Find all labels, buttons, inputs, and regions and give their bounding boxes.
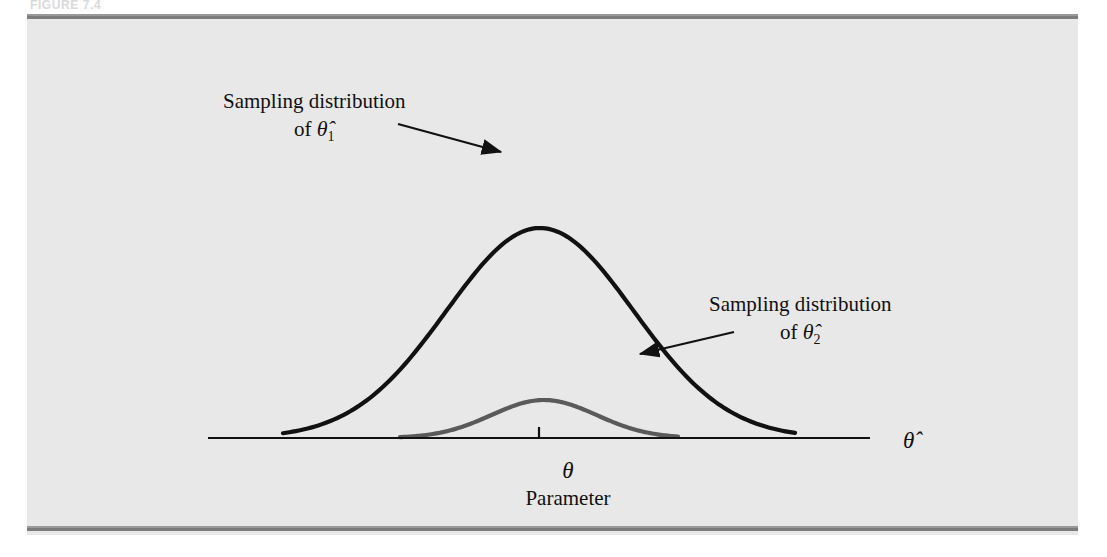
figure-panel: Sampling distribution of θ̂1 Sampling di…: [27, 14, 1078, 535]
annotation-label-estimator-2-prefix: of: [780, 320, 803, 344]
theta-hat-subscript: 1: [328, 129, 335, 144]
figure-root: FIGURE 7.4 Sampling dis: [0, 0, 1107, 557]
theta-hat-symbol: θ̂: [317, 115, 328, 143]
theta-hat-symbol: θ̂: [803, 318, 814, 346]
parameter-name: Parameter: [475, 485, 661, 511]
theta-hat-subscript: 2: [814, 332, 821, 347]
sampling-distribution-plot: [27, 14, 1078, 535]
annotation-label-estimator-1-line2: of θ̂1: [223, 115, 406, 146]
annotation-arrow-estimator-1: [398, 124, 501, 152]
annotation-label-estimator-1-line1: Sampling distribution: [223, 89, 406, 113]
x-axis-variable-label: θ̂: [903, 428, 914, 454]
annotation-label-estimator-1-prefix: of: [294, 117, 317, 141]
annotation-label-estimator-2-line2: of θ̂2: [709, 318, 892, 349]
annotation-label-estimator-2: Sampling distribution of θ̂2: [709, 291, 892, 349]
annotation-label-estimator-2-line1: Sampling distribution: [709, 292, 892, 316]
annotation-label-estimator-1: Sampling distribution of θ̂1: [223, 88, 406, 146]
parameter-label-block: θ Parameter: [475, 458, 661, 512]
figure-caption-strip: FIGURE 7.4: [30, 0, 450, 11]
parameter-symbol: θ: [475, 458, 661, 483]
